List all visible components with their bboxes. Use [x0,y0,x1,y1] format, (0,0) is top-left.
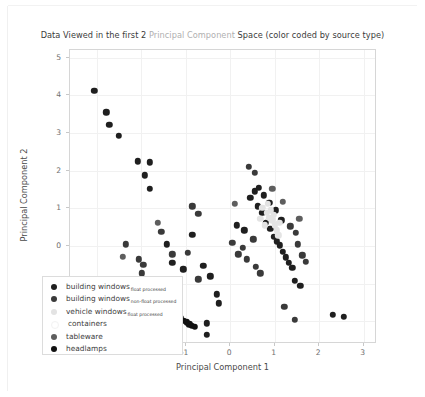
gridline-horizontal [70,171,375,172]
scatter-point [185,250,191,256]
scatter-point [169,251,175,257]
legend[interactable]: building windowsfloat processedbuilding … [42,276,183,355]
scatter-point [103,109,109,115]
y-tickmark [66,94,69,95]
x-tickmark [318,343,319,346]
scatter-point [279,198,285,204]
scatter-point [329,311,335,317]
scatter-point [140,262,146,268]
scatter-point [204,320,210,326]
x-tick-label: 1 [271,348,276,357]
gridline-horizontal [70,58,375,59]
legend-label-subscript: float processed [131,287,166,292]
legend-marker-icon [51,296,57,302]
scatter-point [134,158,140,164]
chart-title: Data Viewed in the first 2 Principal Com… [0,30,425,40]
gridline-vertical [275,50,276,342]
gridline-vertical [319,50,320,342]
x-tick-label: 0 [227,348,232,357]
y-tick-label: 2 [35,165,61,174]
scatter-point [276,219,282,225]
legend-item-tableware[interactable]: tableware [43,331,182,343]
chart-title-part1: Data Viewed in the first 2 [41,30,149,40]
scatter-point [251,169,257,175]
scatter-point [191,324,197,330]
legend-item-vehicle-windows[interactable]: vehicle windowsfloat processed [43,306,182,318]
scatter-point [281,304,287,310]
scatter-point [244,256,250,262]
y-axis-label: Principal Component 2 [19,115,29,275]
chart-title-part2: Principal Component [149,30,235,40]
y-tickmark [66,245,69,246]
scatter-point [147,159,153,165]
scatter-point [142,172,148,178]
scatter-point [116,133,122,139]
gridline-horizontal [70,246,375,247]
scatter-point [204,331,210,337]
scatter-point [303,259,309,265]
legend-item-building-windows[interactable]: building windowsfloat processed [43,281,182,293]
x-tickmark [363,343,364,346]
y-tick-label: 4 [35,90,61,99]
scatter-point [216,300,222,306]
legend-marker-icon [51,346,57,352]
chart-title-part3: Space (color coded by source type) [235,30,384,40]
scatter-point [119,253,125,259]
gridline-horizontal [70,208,375,209]
y-tick-label: 1 [35,203,61,212]
scatter-point [289,265,295,271]
scatter-point [200,262,206,268]
scatter-point [260,192,266,198]
scatter-point [296,216,302,222]
scatter-point [250,236,256,242]
gridline-vertical [186,50,187,342]
y-tick-label: 3 [35,127,61,136]
scatter-point [189,231,195,237]
scatter-point [207,273,213,279]
scatter-point [256,184,262,190]
scatter-point [293,230,299,236]
legend-label: containers [68,318,107,329]
figure-page: Data Viewed in the first 2 Principal Com… [0,0,425,397]
x-tick-label: 3 [360,348,365,357]
scatter-point [195,276,201,282]
scatter-point [147,186,153,192]
scatter-point [287,223,293,229]
y-tickmark [66,170,69,171]
legend-marker-icon [51,309,57,315]
y-tickmark [66,57,69,58]
gridline-vertical [230,50,231,342]
legend-label: headlamps [66,343,107,354]
gridline-vertical [364,50,365,342]
y-tick-label: 0 [35,241,61,250]
legend-label-subscript: float processed [128,312,163,317]
scatter-point [247,195,253,201]
x-tickmark [185,343,186,346]
scatter-point [155,219,161,225]
scatter-point [235,251,241,257]
scatter-point [106,121,112,127]
legend-label: tableware [66,331,103,342]
scatter-point [214,291,220,297]
legend-item-building-windows[interactable]: building windowsnon-float processed [43,293,182,305]
scatter-point [239,245,245,251]
scatter-point [231,201,237,207]
scatter-point [340,314,346,320]
gridline-horizontal [70,95,375,96]
y-tick-label: 5 [35,52,61,61]
legend-item-headlamps[interactable]: headlamps [43,343,182,355]
scatter-point [297,282,303,288]
scatter-point [234,222,240,228]
scatter-figure: Data Viewed in the first 2 Principal Com… [0,0,425,397]
legend-item-containers[interactable]: containers [43,318,182,330]
y-tickmark [66,207,69,208]
scatter-point [195,211,201,217]
x-axis-label: Principal Component 1 [69,362,376,372]
scatter-point [253,264,259,270]
scatter-point [271,212,277,218]
legend-marker-icon [51,284,57,290]
x-tickmark [274,343,275,346]
scatter-point [246,164,252,170]
legend-marker-icon [51,321,59,329]
y-tickmark [66,132,69,133]
